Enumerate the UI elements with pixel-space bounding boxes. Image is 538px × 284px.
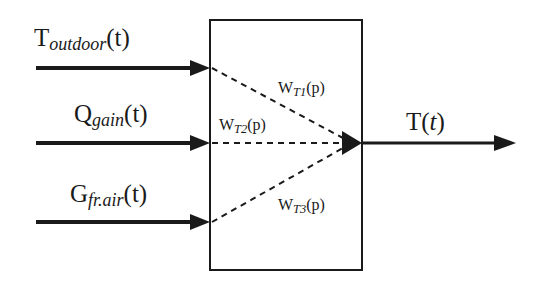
label-arg: (t) <box>106 24 130 51</box>
input-label-fresh-air: Gfr.air(t) <box>70 181 147 206</box>
label-subscript: gain <box>92 110 124 130</box>
input-arrow-heat-gain <box>36 135 210 151</box>
label-subscript: T3 <box>293 202 306 216</box>
system-box <box>210 20 362 270</box>
label-close: ) <box>437 108 445 135</box>
input-arrow-outdoor-temp <box>36 60 210 76</box>
label-base: T <box>34 24 49 51</box>
input-label-heat-gain: Qgain(t) <box>74 101 148 126</box>
label-base: Q <box>74 100 92 127</box>
summing-arrowhead-icon <box>342 131 362 155</box>
label-arg: (t) <box>124 180 148 207</box>
label-base: T( <box>406 108 430 135</box>
label-subscript: T1 <box>293 85 306 99</box>
label-arg: (p) <box>306 196 325 213</box>
output-label-indoor-temp: T(t) <box>406 109 445 134</box>
label-subscript: outdoor <box>49 34 106 54</box>
weight-label-3: WT3(p) <box>278 197 325 213</box>
weight-label-2: WT2(p) <box>219 117 266 133</box>
label-base: W <box>278 196 293 213</box>
weight-label-1: WT1(p) <box>278 80 325 96</box>
label-subscript: fr.air <box>88 190 124 210</box>
label-base: W <box>278 79 293 96</box>
label-base: W <box>219 116 234 133</box>
label-base: G <box>70 180 88 207</box>
input-arrow-fresh-air <box>36 214 210 230</box>
label-var: t <box>430 108 437 135</box>
output-arrow <box>362 135 516 151</box>
input-label-outdoor-temp: Toutdoor(t) <box>34 25 130 50</box>
label-arg: (p) <box>247 116 266 133</box>
label-arg: (p) <box>306 79 325 96</box>
label-arg: (t) <box>124 100 148 127</box>
label-subscript: T2 <box>234 122 247 136</box>
